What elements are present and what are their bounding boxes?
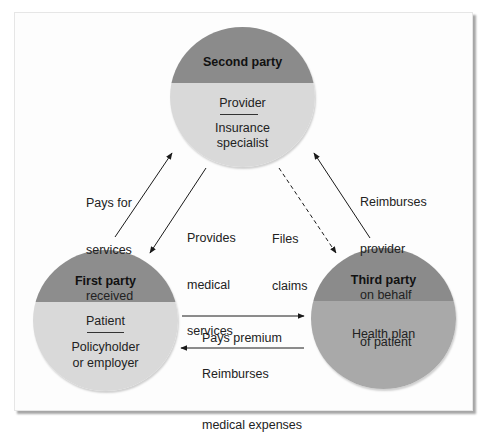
pays-for-services-line2: services <box>86 243 133 259</box>
second-party-body: Provider Insurance specialist <box>170 83 315 167</box>
first-party-separator <box>87 332 124 333</box>
reimburses-provider-line2: provider <box>360 242 427 258</box>
second-party-primary-role: Provider <box>170 96 315 111</box>
reimburses-provider-line1: Reimburses <box>360 195 427 211</box>
second-party-title: Second party <box>170 55 315 69</box>
reimburses-expenses-line2: medical expenses <box>202 417 302 434</box>
second-party-secondary-role-1: Insurance <box>170 121 315 136</box>
files-claims-line1: Files <box>272 232 307 248</box>
reimburses-expenses-label: Reimburses medical expenses <box>202 332 302 436</box>
provides-services-line1: Provides <box>187 231 236 247</box>
reimburses-provider-line4: of patient <box>360 335 427 351</box>
first-party-secondary-role-2: or employer <box>33 356 178 371</box>
reimburses-expenses-line1: Reimburses <box>202 366 302 383</box>
provides-services-line2: medical <box>187 278 236 294</box>
files-claims-label: Files claims <box>272 201 307 310</box>
second-party-secondary-role-2: specialist <box>170 136 315 151</box>
pays-for-services-line1: Pays for <box>86 196 133 212</box>
files-claims-line2: claims <box>272 279 307 295</box>
reimburses-provider-line3: on behalf <box>360 288 427 304</box>
second-party-circle: Second party Provider Insurance speciali… <box>170 27 315 167</box>
reimburses-provider-label: Reimburses provider on behalf of patient <box>360 164 427 366</box>
second-party-separator <box>220 114 258 115</box>
pays-for-services-line3: received <box>86 289 133 305</box>
pays-for-services-label: Pays for services received <box>86 165 133 320</box>
second-party-header: Second party <box>170 27 315 83</box>
first-party-secondary-role-1: Policyholder <box>33 340 178 355</box>
